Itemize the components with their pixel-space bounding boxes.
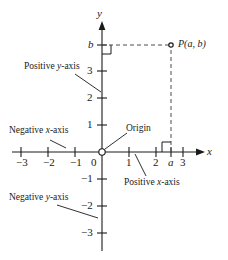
annotation-positive-y-axis: Positive y-axis — [24, 62, 80, 72]
x-tick-label-neg2: −2 — [43, 157, 55, 168]
annotation-origin: Origin — [126, 124, 151, 134]
point-p-marker — [169, 43, 173, 47]
y-tick-label-neg1: −1 — [81, 173, 93, 184]
x-coord-label-a: a — [168, 157, 174, 168]
leader-line-positive-x — [135, 154, 146, 176]
y-coord-label-b: b — [88, 39, 94, 50]
annotation-negative-y-suffix: -axis — [50, 192, 68, 202]
y-tick-label-1: 1 — [87, 119, 93, 130]
annotation-positive-x-prefix: Positive — [124, 177, 157, 187]
right-angle-mark-y — [102, 45, 111, 54]
y-tick-label-3: 3 — [87, 65, 93, 76]
annotation-negative-x-prefix: Negative — [9, 125, 46, 135]
origin-tick-label: 0 — [91, 157, 97, 168]
annotation-positive-x-axis: Positive x-axis — [124, 178, 180, 188]
annotation-positive-y-suffix: -axis — [61, 61, 79, 71]
origin-marker — [99, 149, 105, 155]
annotation-negative-x-suffix: -axis — [50, 125, 68, 135]
annotation-negative-y-axis: Negative y-axis — [9, 193, 68, 203]
x-tick-label-2: 2 — [153, 157, 159, 168]
x-tick-label-neg1: −1 — [70, 157, 82, 168]
y-axis-arrowhead — [99, 21, 106, 30]
y-tick-label-neg3: −3 — [81, 227, 93, 238]
y-axis-name-label: y — [97, 8, 102, 19]
annotation-positive-y-prefix: Positive — [24, 61, 57, 71]
point-p-label: P(a, b) — [178, 39, 206, 49]
y-tick-label-neg2: −2 — [81, 200, 93, 211]
x-axis-arrowhead — [196, 149, 205, 156]
coordinate-plane-figure: −3 −2 −1 1 2 3 a 0 3 2 1 −1 −2 −3 b x y … — [0, 0, 228, 260]
leader-line-positive-y — [75, 74, 101, 92]
x-tick-label-neg3: −3 — [16, 157, 28, 168]
y-tick-label-2: 2 — [87, 92, 93, 103]
annotation-negative-x-axis: Negative x-axis — [9, 126, 68, 136]
annotation-negative-y-prefix: Negative — [9, 192, 46, 202]
right-angle-mark-x — [162, 142, 171, 152]
x-tick-label-1: 1 — [126, 157, 132, 168]
leader-line-negative-x — [50, 140, 66, 148]
x-axis-name-label: x — [207, 146, 212, 157]
x-tick-label-3: 3 — [180, 157, 186, 168]
annotation-positive-x-suffix: -axis — [161, 177, 179, 187]
leader-line-origin — [105, 133, 127, 149]
